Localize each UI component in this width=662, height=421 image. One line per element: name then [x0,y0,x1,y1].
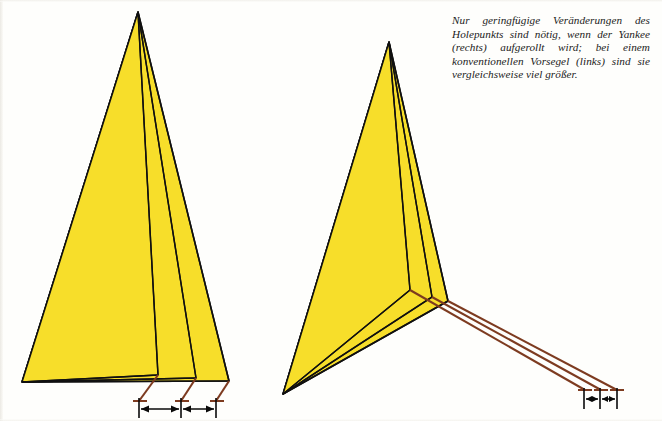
left-dimension-arrow-2 [183,406,214,413]
left-figure-conventional-foresail [22,12,229,418]
right-sheet-line-outer [448,301,617,390]
figure-caption: Nur geringfügige Veränderungen des Holep… [452,14,650,82]
left-dimension-arrow-1 [141,406,179,413]
right-sheet-line-inner [410,290,585,390]
book-page: Nur geringfügige Veränderungen des Holep… [0,0,662,421]
right-sheet-line-middle [432,297,601,390]
right-dimension-arrow-2 [602,396,615,402]
left-sheet-line-outer [216,381,229,401]
left-sail-inner [22,12,158,382]
right-figure-yankee [283,42,624,409]
right-dimension-arrow-1 [586,396,598,402]
